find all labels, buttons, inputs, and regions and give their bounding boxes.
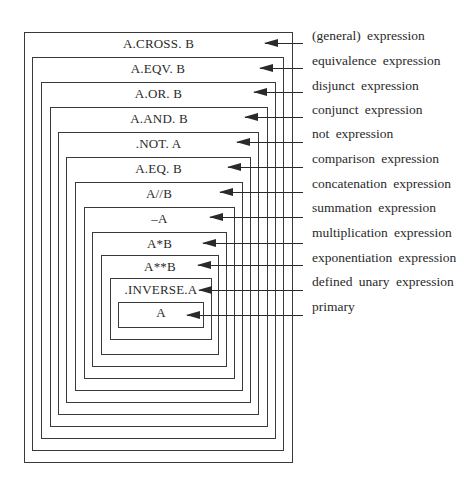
arrowhead-icon [186,311,200,319]
label-not-expression: not expression [312,126,393,142]
label-multiplication-expression: multiplication expression [312,225,452,241]
expr-conjunct: A.AND. B [51,111,267,127]
arrowhead-icon [197,261,211,269]
arrow-comparison [228,167,303,168]
label-conjunct-expression: conjunct expression [312,102,423,118]
label-defined-unary-expression: defined unary expression [312,274,454,290]
label-exponentiation-expression: exponentiation expression [312,250,456,266]
label-concatenation-expression: concatenation expression [312,176,451,192]
expression-hierarchy-diagram: A.CROSS. B A.EQV. B A.OR. B A.AND. B .NO… [0,0,476,486]
arrowhead-icon [253,88,267,96]
arrowhead-icon [219,188,233,196]
expr-concatenation: A//B [76,186,242,202]
label-comparison-expression: comparison expression [312,151,439,167]
arrow-defined-unary [199,290,303,291]
arrow-primary [187,315,303,316]
expr-not: .NOT. A [59,136,258,152]
arrowhead-icon [236,138,250,146]
arrowhead-icon [209,213,223,221]
label-general-expression: (general) expression [312,28,425,44]
arrowhead-icon [202,239,216,247]
arrowhead-icon [259,64,273,72]
expr-comparison: A.EQ. B [67,161,250,177]
expr-defined-unary: .INVERSE.A [111,282,211,298]
arrowhead-icon [198,286,212,294]
expr-equivalence: A.EQV. B [33,61,283,77]
arrowhead-icon [244,113,258,121]
label-equivalence-expression: equivalence expression [312,53,441,69]
arrow-conjunct [245,117,303,118]
arrowhead-icon [227,163,241,171]
arrow-not [237,142,303,143]
arrow-exponentiation [198,265,303,266]
arrow-concatenation [220,192,303,193]
expr-general: A.CROSS. B [25,36,292,52]
arrow-general [265,43,303,44]
arrow-summation [210,217,303,218]
arrow-disjunct [254,92,303,93]
arrow-equivalence [260,68,303,69]
label-primary: primary [312,299,355,315]
label-disjunct-expression: disjunct expression [312,78,419,94]
label-summation-expression: summation expression [312,200,436,216]
arrowhead-icon [264,39,278,47]
arrow-multiplication [203,243,303,244]
expr-disjunct: A.OR. B [42,86,275,102]
